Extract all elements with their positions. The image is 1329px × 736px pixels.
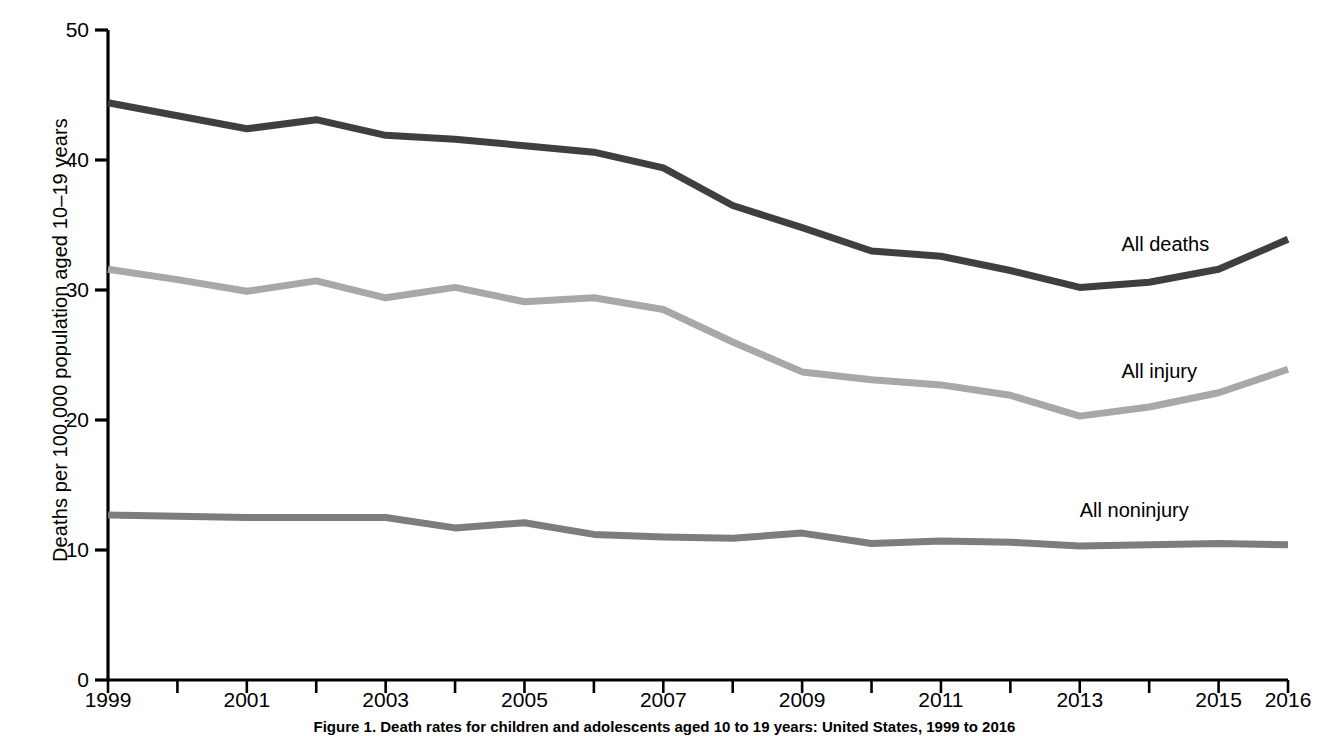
x-tick-label: 2007 — [623, 688, 703, 712]
series-line-all-injury — [108, 269, 1288, 416]
series-label-all-injury: All injury — [1121, 360, 1197, 383]
x-tick-label: 2013 — [1040, 688, 1120, 712]
x-tick-label: 2015 — [1179, 688, 1259, 712]
series-line-all-deaths — [108, 103, 1288, 288]
y-tick-label: 30 — [43, 278, 89, 302]
x-tick-label: 2011 — [901, 688, 981, 712]
y-tick-label: 10 — [43, 538, 89, 562]
x-tick-label: 2005 — [484, 688, 564, 712]
y-tick-label: 20 — [43, 408, 89, 432]
x-tick-label: 2009 — [762, 688, 842, 712]
series-label-all-deaths: All deaths — [1121, 233, 1209, 256]
x-tick-label: 2001 — [207, 688, 287, 712]
y-tick-label: 40 — [43, 148, 89, 172]
series-label-all-noninjury: All noninjury — [1080, 499, 1189, 522]
x-tick-label: 1999 — [68, 688, 148, 712]
y-tick-label: 50 — [43, 18, 89, 42]
x-tick-label: 2016 — [1248, 688, 1328, 712]
x-tick-label: 2003 — [346, 688, 426, 712]
figure-caption: Figure 1. Death rates for children and a… — [0, 718, 1329, 735]
chart-figure: Deaths per 100,000 population aged 10–19… — [0, 0, 1329, 736]
